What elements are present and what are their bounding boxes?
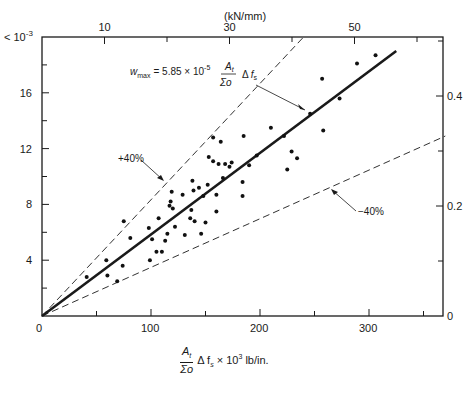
data-point bbox=[230, 161, 234, 165]
y-tick-label: 12 bbox=[20, 143, 32, 155]
x-tick-label: 0 bbox=[36, 322, 42, 334]
data-point bbox=[189, 208, 193, 212]
x-label-rest: Δ fs × 103 lb/in. bbox=[197, 353, 268, 368]
data-point bbox=[157, 216, 161, 220]
data-point bbox=[338, 96, 342, 100]
data-point bbox=[214, 209, 218, 213]
data-point bbox=[85, 275, 89, 279]
data-point bbox=[321, 128, 325, 132]
data-point bbox=[150, 237, 154, 241]
data-point bbox=[374, 53, 378, 57]
data-point bbox=[295, 156, 299, 160]
data-point bbox=[104, 258, 108, 262]
right-tick-label: 0.2 bbox=[447, 200, 462, 212]
fit-line bbox=[42, 51, 396, 316]
axis-ticks: 010020030048121610305000.20.4 bbox=[20, 21, 463, 334]
data-point bbox=[165, 232, 169, 236]
data-point bbox=[163, 239, 167, 243]
annotations: < 10-3 (kN/mm) wmax= 5.85 × 10-5 At Σo Δ… bbox=[4, 10, 384, 217]
data-point bbox=[211, 159, 215, 163]
data-point bbox=[170, 190, 174, 194]
data-point bbox=[290, 149, 294, 153]
data-point bbox=[241, 180, 245, 184]
data-point bbox=[211, 135, 215, 139]
data-point bbox=[320, 77, 324, 81]
plus40-label: +40% bbox=[118, 153, 164, 181]
data-point bbox=[181, 193, 185, 197]
top-tick-label: 50 bbox=[348, 21, 360, 33]
data-point bbox=[122, 219, 126, 223]
y-tick-label: 8 bbox=[26, 198, 32, 210]
data-point bbox=[227, 165, 231, 169]
data-point bbox=[223, 162, 227, 166]
data-point bbox=[207, 155, 211, 159]
minus40-label: −40% bbox=[331, 189, 384, 217]
minus40-line bbox=[42, 136, 445, 316]
plus40-line bbox=[42, 37, 304, 316]
data-point bbox=[269, 126, 273, 130]
data-point bbox=[190, 179, 194, 183]
svg-text:Δfs: Δfs bbox=[242, 69, 257, 81]
data-point bbox=[219, 140, 223, 144]
data-point bbox=[204, 221, 208, 225]
svg-text:−40%: −40% bbox=[358, 206, 384, 217]
data-point bbox=[148, 258, 152, 262]
y-tick-label: 4 bbox=[26, 254, 32, 266]
data-point bbox=[183, 233, 187, 237]
data-point bbox=[160, 250, 164, 254]
top-tick-label: 30 bbox=[223, 21, 235, 33]
data-point bbox=[188, 216, 192, 220]
data-point bbox=[154, 250, 158, 254]
data-point bbox=[192, 188, 196, 192]
x-axis-label: At Σo Δ fs × 103 lb/in. bbox=[180, 345, 269, 375]
data-point bbox=[241, 194, 245, 198]
data-point bbox=[121, 264, 125, 268]
x-tick-label: 100 bbox=[141, 322, 159, 334]
data-point bbox=[214, 193, 218, 197]
data-point bbox=[242, 134, 246, 138]
scatter-chart: 010020030048121610305000.20.4 < 10-3 (kN… bbox=[0, 0, 473, 393]
data-point bbox=[206, 183, 210, 187]
data-point bbox=[193, 219, 197, 223]
x-tick-label: 300 bbox=[359, 322, 377, 334]
data-point bbox=[105, 274, 109, 278]
svg-text:At: At bbox=[224, 61, 235, 73]
data-point bbox=[201, 194, 205, 198]
svg-text:+40%: +40% bbox=[118, 153, 144, 164]
data-point bbox=[247, 163, 251, 167]
data-point bbox=[168, 204, 172, 208]
data-point bbox=[171, 207, 175, 211]
data-point bbox=[128, 236, 132, 240]
data-point bbox=[308, 112, 312, 116]
data-point bbox=[169, 200, 173, 204]
x-label-fraction: At Σo bbox=[180, 345, 193, 375]
data-point bbox=[115, 279, 119, 283]
data-point bbox=[285, 168, 289, 172]
right-tick-label: 0 bbox=[447, 310, 453, 322]
top-axis-unit: (kN/mm) bbox=[224, 10, 266, 22]
y-scale-label: < 10-3 bbox=[4, 29, 33, 43]
right-tick-label: 0.4 bbox=[447, 90, 462, 102]
x-tick-label: 200 bbox=[250, 322, 268, 334]
equation-label: wmax= 5.85 × 10-5 At Σo Δfs bbox=[130, 61, 305, 110]
svg-text:wmax= 5.85 × 10-5: wmax= 5.85 × 10-5 bbox=[130, 64, 210, 79]
data-point bbox=[255, 154, 259, 158]
data-point bbox=[199, 232, 203, 236]
top-tick-label: 10 bbox=[98, 21, 110, 33]
data-point bbox=[197, 186, 201, 190]
data-point bbox=[173, 225, 177, 229]
data-point bbox=[355, 62, 359, 66]
data-point bbox=[217, 162, 221, 166]
data-point bbox=[221, 176, 225, 180]
y-tick-label: 16 bbox=[20, 87, 32, 99]
data-point bbox=[147, 226, 151, 230]
svg-text:Σo: Σo bbox=[219, 77, 232, 88]
data-point bbox=[282, 134, 286, 138]
